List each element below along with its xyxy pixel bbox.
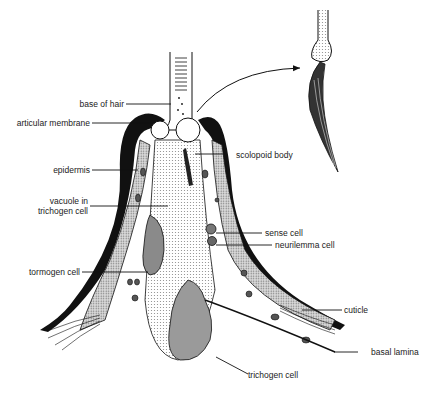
- label-base-of-hair: base of hair: [26, 99, 124, 109]
- label-epidermis: epidermis: [30, 165, 90, 175]
- label-trichogen-cell: trichogen cell: [248, 370, 298, 380]
- label-articular-membrane: articular membrane: [0, 118, 90, 128]
- enlargement-arrow: [197, 68, 300, 112]
- label-tormogen-cell: tormogen cell: [10, 267, 80, 277]
- sense-cell: [206, 224, 216, 234]
- neurilemma-cell: [208, 237, 217, 246]
- label-scolopoid-body: scolopoid body: [236, 150, 293, 160]
- inset-enlargement: [309, 10, 338, 172]
- label-neurilemma-cell: neurilemma cell: [275, 240, 335, 250]
- label-basal-lamina: basal lamina: [371, 347, 419, 357]
- label-vacuole-line1: vacuole in: [20, 196, 88, 206]
- basal-lamina-line: [205, 300, 335, 352]
- label-sense-cell: sense cell: [265, 228, 303, 238]
- sensillum-diagram: base of hair articular membrane epidermi…: [0, 0, 431, 394]
- label-cuticle: cuticle: [344, 305, 368, 315]
- label-vacuole-line2: trichogen cell: [20, 206, 88, 216]
